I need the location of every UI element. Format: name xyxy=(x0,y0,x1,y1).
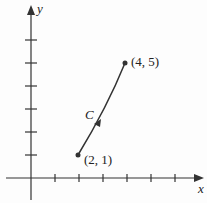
start-point-label: (2, 1) xyxy=(84,152,112,168)
y-axis-label: y xyxy=(37,1,43,17)
x-axis-label: x xyxy=(198,181,204,197)
axes-and-curve xyxy=(0,0,207,203)
end-point-label: (4, 5) xyxy=(131,54,159,70)
y-axis-arrow-icon xyxy=(27,5,35,15)
curve-label: C xyxy=(85,107,94,123)
point-end xyxy=(123,61,128,66)
point-start xyxy=(76,153,81,158)
diagram-canvas: y x C (2, 1) (4, 5) xyxy=(0,0,207,203)
